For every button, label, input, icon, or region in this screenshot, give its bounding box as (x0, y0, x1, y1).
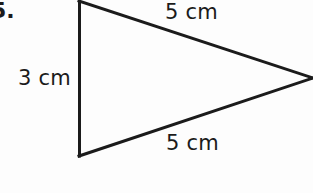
triangle-figure (0, 0, 313, 193)
side-label-left: 3 cm (18, 67, 71, 89)
figure-canvas: 5. 5 cm 3 cm 5 cm (0, 0, 313, 193)
problem-number: 5. (0, 0, 15, 22)
side-label-bottom: 5 cm (166, 132, 219, 154)
side-label-top: 5 cm (165, 1, 218, 23)
